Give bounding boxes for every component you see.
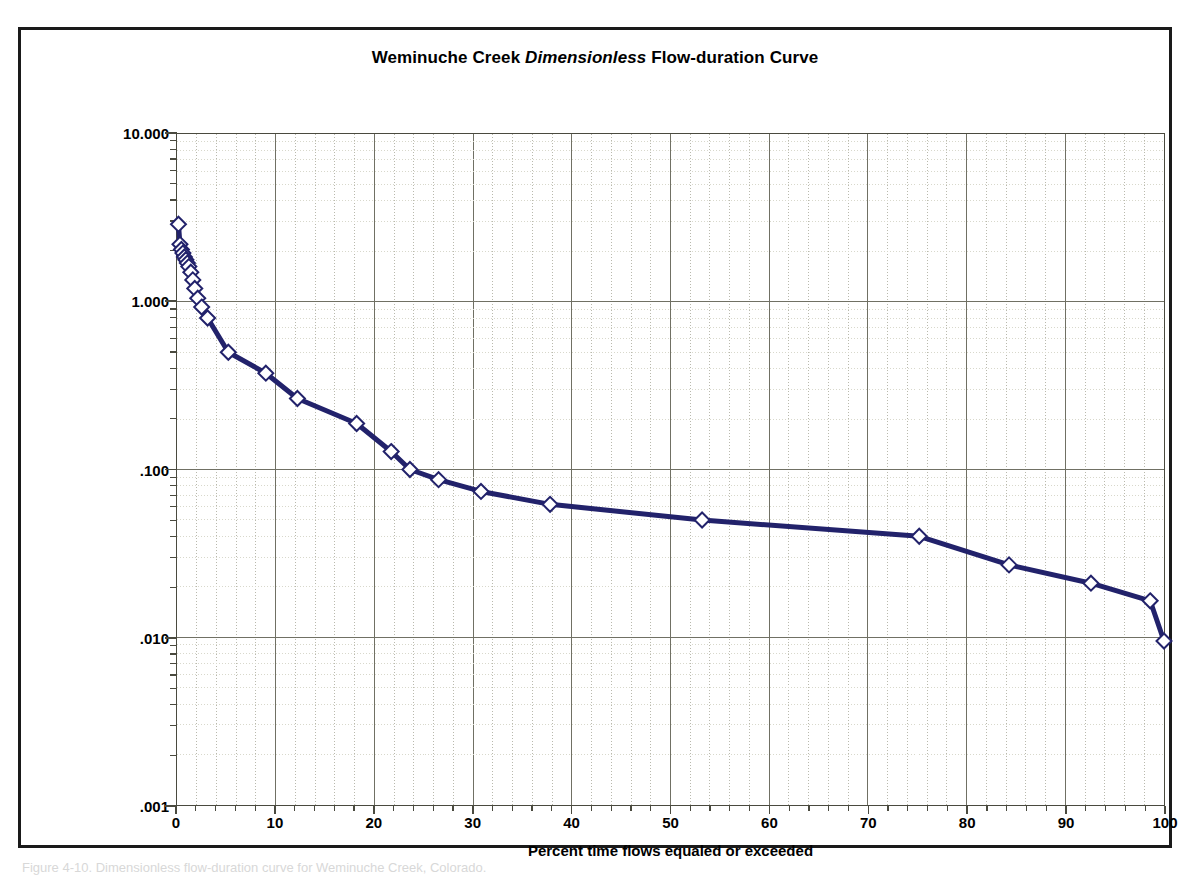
figure-frame: Weminuche Creek Dimensionless Flow-durat… xyxy=(18,27,1172,848)
x-tick-label: 100 xyxy=(1152,814,1177,831)
data-point-marker xyxy=(1002,557,1017,572)
data-point-marker xyxy=(1157,634,1172,649)
x-tick-label: 90 xyxy=(1058,814,1075,831)
chart-title-suffix: Flow-duration Curve xyxy=(646,48,818,67)
y-axis-ticks xyxy=(162,133,177,806)
data-point-marker xyxy=(543,497,558,512)
x-tick-label: 0 xyxy=(172,814,180,831)
x-axis-title: Percent time flows equaled or exceeded xyxy=(176,842,1165,859)
x-axis-tick-labels: 0102030405060708090100 xyxy=(176,812,1165,838)
y-axis-tick-labels: 10.0001.000.100.010.001 xyxy=(61,133,169,806)
x-tick-label: 80 xyxy=(959,814,976,831)
chart-title-emphasis: Dimensionless xyxy=(525,48,646,67)
x-tick-label: 40 xyxy=(563,814,580,831)
x-tick-label: 20 xyxy=(365,814,382,831)
chart-title-prefix: Weminuche Creek xyxy=(372,48,525,67)
x-tick-label: 70 xyxy=(860,814,877,831)
flow-duration-curve-line xyxy=(178,224,1164,641)
x-tick-label: 10 xyxy=(267,814,284,831)
plot-area xyxy=(176,133,1165,806)
x-tick-label: 30 xyxy=(464,814,481,831)
figure-caption: Figure 4-10. Dimensionless flow-duration… xyxy=(22,860,1162,876)
chart-title: Weminuche Creek Dimensionless Flow-durat… xyxy=(21,48,1169,68)
data-point-marker xyxy=(1143,593,1158,608)
data-point-marker xyxy=(912,529,927,544)
x-tick-label: 50 xyxy=(662,814,679,831)
data-point-marker xyxy=(474,484,489,499)
data-point-marker xyxy=(695,513,710,528)
data-point-marker xyxy=(1083,576,1098,591)
figure-page: Weminuche Creek Dimensionless Flow-durat… xyxy=(0,0,1191,879)
data-point-marker xyxy=(431,472,446,487)
data-series-layer xyxy=(177,134,1164,805)
x-tick-label: 60 xyxy=(761,814,778,831)
